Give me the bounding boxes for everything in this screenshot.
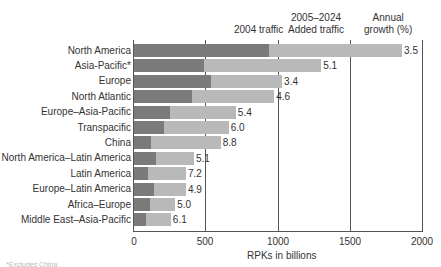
x-tick-1500: 1500 bbox=[330, 236, 370, 248]
growth-value-label: 5.1 bbox=[323, 60, 337, 72]
growth-value-label: 6.1 bbox=[173, 214, 187, 226]
bar-segment-added bbox=[164, 121, 228, 134]
category-label: Europe–Latin America bbox=[33, 183, 131, 195]
bar-segment-2004 bbox=[134, 59, 204, 72]
growth-value-label: 5.0 bbox=[177, 199, 191, 211]
stacked-bar bbox=[134, 75, 282, 88]
growth-value-label: 5.1 bbox=[196, 153, 210, 165]
x-axis-line bbox=[133, 231, 423, 232]
stacked-bar bbox=[134, 44, 402, 57]
bar-segment-2004 bbox=[134, 136, 151, 149]
bar-segment-2004 bbox=[134, 198, 150, 211]
stacked-bar bbox=[134, 167, 186, 180]
bar-segment-added bbox=[170, 106, 236, 119]
stacked-bar bbox=[134, 121, 229, 134]
bar-segment-2004 bbox=[134, 44, 269, 57]
stacked-bar-chart: 2004 traffic 2005–2024 Added traffic Ann… bbox=[0, 0, 441, 267]
x-tick-1000: 1000 bbox=[258, 236, 298, 248]
category-label: Africa–Europe bbox=[68, 199, 131, 211]
bar-segment-2004 bbox=[134, 106, 170, 119]
bar-segment-2004 bbox=[134, 152, 156, 165]
growth-value-label: 3.5 bbox=[404, 45, 418, 57]
bar-segment-added bbox=[148, 167, 186, 180]
bar-segment-added bbox=[151, 136, 220, 149]
growth-value-label: 4.9 bbox=[188, 184, 202, 196]
stacked-bar bbox=[134, 183, 186, 196]
category-label: Europe bbox=[99, 75, 131, 87]
header-growth-line1: Annual bbox=[364, 12, 412, 24]
bar-segment-2004 bbox=[134, 75, 211, 88]
growth-value-label: 4.6 bbox=[276, 91, 290, 103]
bar-segment-added bbox=[154, 183, 186, 196]
footnote: *Excludes China bbox=[6, 261, 57, 267]
header-added-traffic: 2005–2024 Added traffic bbox=[288, 12, 344, 36]
gridline-2000 bbox=[422, 40, 423, 231]
bar-segment-added bbox=[211, 75, 283, 88]
x-tick-2000: 2000 bbox=[402, 236, 441, 248]
category-label: Europe–Asia-Pacific bbox=[41, 106, 131, 118]
bar-segment-2004 bbox=[134, 167, 148, 180]
header-2004-traffic: 2004 traffic bbox=[234, 24, 283, 36]
category-label: Middle East–Asia-Pacific bbox=[21, 214, 131, 226]
growth-value-label: 3.4 bbox=[284, 76, 298, 88]
stacked-bar bbox=[134, 198, 175, 211]
bar-segment-added bbox=[150, 198, 175, 211]
header-added-line2: Added traffic bbox=[288, 24, 344, 36]
category-label: Asia-Pacific* bbox=[75, 60, 131, 72]
growth-value-label: 5.4 bbox=[238, 107, 252, 119]
x-tick-500: 500 bbox=[185, 236, 225, 248]
stacked-bar bbox=[134, 152, 194, 165]
x-tick-0: 0 bbox=[114, 236, 154, 248]
bar-segment-added bbox=[156, 152, 194, 165]
stacked-bar bbox=[134, 90, 274, 103]
bar-segment-added bbox=[204, 59, 321, 72]
growth-value-label: 7.2 bbox=[188, 168, 202, 180]
category-label: China bbox=[105, 137, 131, 149]
category-label: North America bbox=[68, 45, 131, 57]
gridline-1500 bbox=[350, 40, 351, 231]
stacked-bar bbox=[134, 136, 221, 149]
bar-segment-2004 bbox=[134, 90, 192, 103]
header-annual-growth: Annual growth (%) bbox=[364, 12, 412, 36]
header-added-line1: 2005–2024 bbox=[288, 12, 344, 24]
bar-segment-added bbox=[192, 90, 274, 103]
header-growth-line2: growth (%) bbox=[364, 24, 412, 36]
category-label: North America–Latin America bbox=[1, 152, 131, 164]
category-label: Transpacific bbox=[77, 122, 131, 134]
bar-segment-2004 bbox=[134, 121, 164, 134]
category-label: Latin America bbox=[70, 168, 131, 180]
bar-segment-added bbox=[146, 213, 171, 226]
growth-value-label: 8.8 bbox=[223, 137, 237, 149]
growth-value-label: 6.0 bbox=[231, 122, 245, 134]
stacked-bar bbox=[134, 213, 171, 226]
bar-segment-2004 bbox=[134, 213, 146, 226]
bar-segment-2004 bbox=[134, 183, 154, 196]
stacked-bar bbox=[134, 106, 236, 119]
bar-segment-added bbox=[269, 44, 402, 57]
stacked-bar bbox=[134, 59, 321, 72]
x-axis-label: RPKs in billions bbox=[247, 250, 316, 262]
category-label: North Atlantic bbox=[72, 91, 131, 103]
